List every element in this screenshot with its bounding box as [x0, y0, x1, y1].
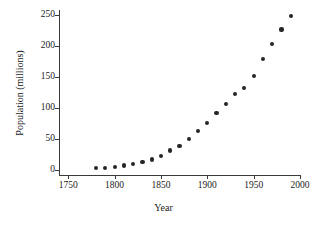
y-tick-label: 50 — [46, 134, 56, 144]
data-point — [261, 57, 265, 61]
data-point — [159, 154, 163, 158]
data-point — [214, 111, 218, 115]
y-tick-label: 150 — [41, 72, 55, 82]
data-point — [140, 160, 144, 164]
y-axis-line — [59, 10, 60, 176]
x-tick-mark — [300, 175, 301, 179]
y-tick-label: 0 — [50, 165, 55, 175]
x-tick-label: 1750 — [59, 181, 78, 191]
y-tick-mark — [55, 108, 59, 109]
y-tick-mark — [55, 15, 59, 16]
x-tick-label: 1900 — [198, 181, 217, 191]
y-tick-label: 200 — [41, 41, 55, 51]
x-tick-label: 2000 — [291, 181, 310, 191]
data-point — [113, 165, 117, 169]
y-tick-mark — [55, 46, 59, 47]
x-tick-label: 1800 — [105, 181, 124, 191]
x-axis-line — [59, 175, 301, 176]
data-point — [233, 92, 237, 96]
data-point — [279, 27, 283, 31]
y-tick-label: 250 — [41, 10, 55, 20]
data-point — [252, 74, 256, 78]
data-point — [177, 144, 181, 148]
data-point — [196, 129, 200, 133]
y-tick-label: 100 — [41, 103, 55, 113]
x-tick-mark — [207, 175, 208, 179]
data-point — [242, 86, 246, 90]
x-tick-mark — [115, 175, 116, 179]
x-tick-label: 1950 — [244, 181, 263, 191]
data-point — [205, 121, 209, 125]
x-axis-label: Year — [0, 203, 327, 213]
x-tick-mark — [161, 175, 162, 179]
x-tick-label: 1850 — [151, 181, 170, 191]
data-point — [122, 163, 126, 167]
data-point — [150, 157, 154, 161]
y-tick-mark — [55, 170, 59, 171]
data-point — [270, 42, 274, 46]
data-point — [187, 137, 191, 141]
plot-area — [59, 10, 300, 175]
y-axis-label-text: Population (millions) — [15, 50, 25, 135]
data-point — [168, 148, 172, 152]
y-tick-mark — [55, 77, 59, 78]
data-point — [103, 166, 107, 170]
scatter-chart-figure: 050100150200250 175018001850190019502000… — [0, 0, 327, 227]
x-tick-mark — [254, 175, 255, 179]
data-point — [94, 166, 98, 170]
data-point — [131, 162, 135, 166]
x-tick-mark — [68, 175, 69, 179]
data-point — [289, 14, 293, 18]
data-point — [224, 102, 228, 106]
y-axis-label: Population (millions) — [13, 0, 27, 185]
y-tick-mark — [55, 139, 59, 140]
